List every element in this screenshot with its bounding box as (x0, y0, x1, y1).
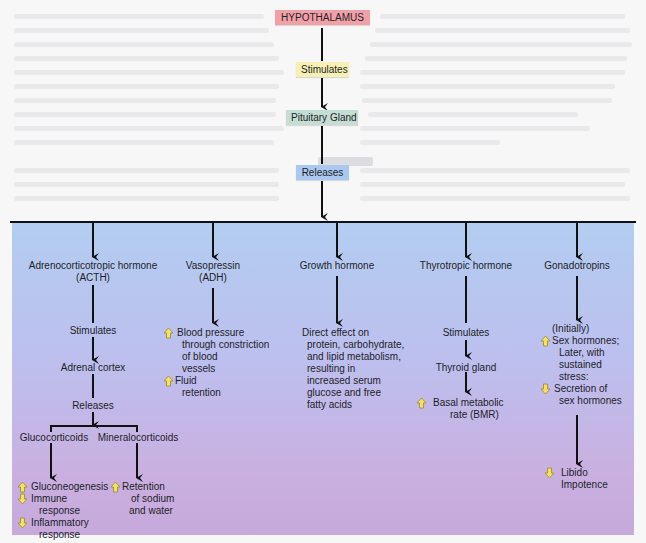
effect-gluconeogenesis: Gluconeogenesis (17, 481, 108, 493)
adh-title-line1: Vasopressin (173, 260, 253, 272)
effect-bmr: Basal metabolic rate (BMR) (416, 397, 504, 421)
pituitary-gland-node: Pituitary Gland (286, 110, 358, 125)
increase-arrow-icon (110, 481, 121, 493)
gonado-final-effects: Libido Impotence (544, 467, 608, 491)
thyroid-gland: Thyroid gland (426, 362, 506, 374)
increase-arrow-icon (17, 481, 28, 493)
decrease-arrow-icon (544, 467, 555, 479)
adh-effects: Blood pressure through constriction of b… (163, 327, 269, 399)
gluco-effects: Gluconeogenesis Immune response Inflamma… (17, 481, 108, 541)
gonadotropins-title: Gonadotropins (532, 260, 622, 272)
effect-blood-pressure: Blood pressure through constriction of b… (163, 327, 269, 375)
decrease-arrow-icon (540, 383, 551, 395)
effect-fluid-retention: Fluid retention (163, 375, 269, 399)
effect-immune-response: Immune response (17, 493, 108, 517)
decrease-arrow-icon (17, 517, 28, 529)
distribution-bar (10, 221, 636, 223)
adrenal-cortex: Adrenal cortex (48, 362, 138, 374)
gonado-effects: (Initially) Sex hormones; Later, with su… (540, 323, 622, 407)
increase-arrow-icon (416, 397, 427, 409)
adh-title: Vasopressin (ADH) (173, 260, 253, 284)
growth-hormone-title: Growth hormone (287, 260, 387, 272)
acth-title: Adrenocorticotropic hormone (ACTH) (23, 260, 163, 284)
effect-sodium-water-retention: Retention of sodium and water (110, 481, 174, 517)
effect-libido-impotence: Libido Impotence (544, 467, 608, 491)
acth-title-line1: Adrenocorticotropic hormone (23, 260, 163, 272)
increase-arrow-icon (163, 375, 174, 387)
thyrotropic-title: Thyrotropic hormone (406, 260, 526, 272)
effect-sex-hormones: Sex hormones; Later, with sustained stre… (540, 335, 622, 383)
effect-inflammatory-response: Inflammatory response (17, 517, 108, 541)
decrease-arrow-icon (17, 493, 28, 505)
increase-arrow-icon (540, 335, 551, 347)
acth-stimulates: Stimulates (53, 325, 133, 337)
thyro-stimulates: Stimulates (431, 327, 501, 339)
effect-sex-hormone-secretion: Secretion of sex hormones (540, 383, 622, 407)
thyro-effects: Basal metabolic rate (BMR) (416, 397, 504, 421)
hypothalamus-node: HYPOTHALAMUS (275, 10, 370, 25)
adh-title-line2: (ADH) (173, 272, 253, 284)
stimulates-label: Stimulates (296, 62, 349, 77)
mineralocorticoids: Mineralocorticoids (93, 432, 183, 444)
acth-releases: Releases (58, 400, 128, 412)
increase-arrow-icon (163, 327, 174, 339)
releases-label: Releases (296, 165, 349, 180)
initially-label: (Initially) (540, 323, 622, 335)
acth-title-line2: (ACTH) (23, 272, 163, 284)
glucocorticoids: Glucocorticoids (19, 432, 89, 444)
mineralo-effects: Retention of sodium and water (110, 481, 174, 517)
growth-hormone-effect: Direct effect on protein, carbohydrate, … (302, 327, 404, 411)
